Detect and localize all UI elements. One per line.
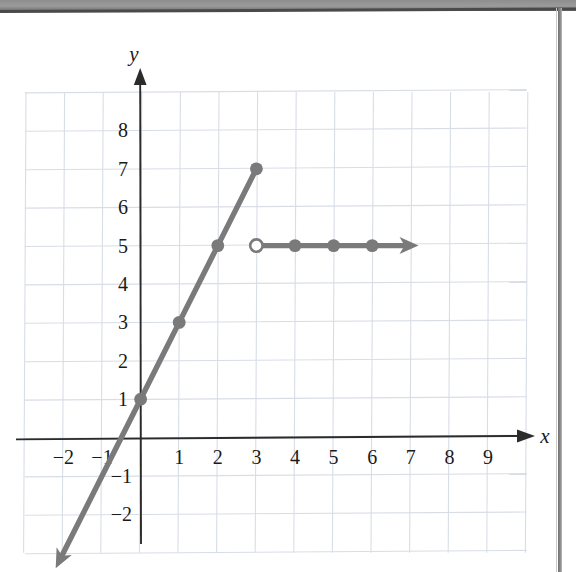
x-tick-label: 1 (174, 446, 184, 468)
y-tick-label: −1 (111, 465, 132, 487)
x-tick-label: 4 (290, 446, 300, 468)
y-tick-label: −2 (111, 503, 132, 525)
grid-line-horizontal (25, 512, 527, 515)
x-tick-label: 6 (367, 446, 377, 468)
textbook-page: 87654321−1−2 −2−1123456789 x y (0, 13, 556, 572)
axes (16, 68, 535, 544)
closed-point-marker (366, 239, 379, 252)
closed-point-marker (289, 239, 302, 252)
grid-line-horizontal (25, 397, 527, 400)
x-tick-label: 5 (329, 446, 339, 468)
grid-line-horizontal (25, 166, 527, 169)
y-axis (140, 85, 141, 544)
closed-point-marker (211, 239, 224, 252)
grid-line-horizontal (25, 320, 527, 323)
x-axis-label: x (539, 424, 550, 448)
y-tick-label: 5 (118, 235, 128, 257)
closed-point-marker (134, 393, 147, 406)
y-tick-label: 4 (118, 273, 128, 295)
grid-line-vertical (371, 92, 373, 553)
grid-line-vertical (332, 92, 334, 553)
x-tick-label: 7 (406, 446, 416, 468)
y-axis-label: y (127, 42, 139, 66)
coordinate-plane-figure: 87654321−1−2 −2−1123456789 x y (0, 13, 556, 572)
x-tick-label: 2 (213, 446, 223, 468)
y-tick-label: 8 (118, 119, 128, 141)
grid-line-horizontal (25, 205, 527, 208)
grid-line-horizontal (25, 358, 527, 361)
grid-line-vertical (525, 92, 527, 553)
grid-line-vertical (24, 92, 26, 553)
grid-line-vertical (448, 92, 450, 553)
series-ray-slope-2 (56, 162, 263, 568)
scan-right-inner-line (556, 8, 557, 572)
grid-line-vertical (487, 92, 489, 553)
x-tick-label: 8 (444, 446, 454, 468)
grid-line-vertical (294, 92, 296, 553)
grid-line-vertical (255, 92, 257, 553)
y-tick-label: 7 (118, 158, 128, 180)
curve-path (60, 169, 256, 559)
grid-line-horizontal (25, 90, 527, 93)
grid-line-vertical (410, 92, 412, 553)
closed-point-marker (327, 239, 340, 252)
y-tick-label: 3 (118, 311, 128, 333)
y-axis-arrowhead (134, 68, 147, 85)
y-tick-label: 2 (118, 350, 128, 372)
series-horizontal-ray-y5 (250, 237, 418, 254)
open-point-marker (250, 239, 262, 251)
closed-point-marker (250, 162, 263, 175)
x-tick-label: 3 (251, 446, 261, 468)
x-tick-label: 9 (483, 446, 493, 468)
grid-line-horizontal (25, 128, 527, 131)
y-tick-label: 6 (118, 196, 128, 218)
x-tick-label: −2 (53, 446, 74, 468)
scan-right-border-line (558, 8, 562, 572)
y-tick-label: 1 (118, 388, 128, 410)
grid-line-vertical (62, 92, 64, 553)
grid-line-horizontal (25, 282, 527, 285)
grid-line-horizontal (25, 550, 527, 553)
closed-point-marker (173, 316, 186, 329)
